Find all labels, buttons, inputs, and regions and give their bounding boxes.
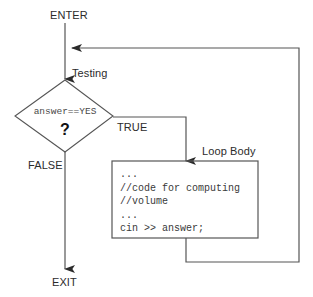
label-loop-body: Loop Body <box>202 145 256 157</box>
code-line: cin >> answer; <box>120 222 252 236</box>
loop-body-code: ...//code for computing//volume...cin >>… <box>120 168 252 236</box>
code-line: //volume <box>120 195 252 209</box>
flowchart-canvas: ENTER Testing answer==YES ? TRUE FALSE L… <box>0 0 313 297</box>
flowchart-graphics <box>0 0 313 297</box>
label-false-branch: FALSE <box>28 159 63 171</box>
code-line: ... <box>120 209 252 223</box>
label-true-branch: TRUE <box>117 121 147 133</box>
label-enter: ENTER <box>50 9 88 21</box>
code-line: //code for computing <box>120 182 252 196</box>
decision-condition-text: answer==YES <box>20 106 110 117</box>
label-exit: EXIT <box>52 276 77 288</box>
code-line: ... <box>120 168 252 182</box>
label-testing: Testing <box>72 67 108 79</box>
decision-question-mark: ? <box>20 121 110 139</box>
